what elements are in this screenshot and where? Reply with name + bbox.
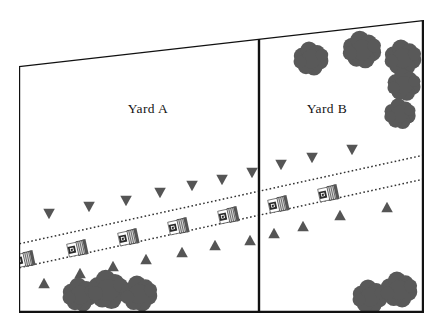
diagram-canvas: Yard A Yard B [0, 0, 438, 331]
site-map-figure: Yard A Yard B [0, 0, 438, 331]
yard-b-label: Yard B [307, 101, 347, 116]
outside-frame-mask-right [424, 0, 438, 331]
outside-frame-mask-bottom [0, 313, 438, 331]
yard-a-label: Yard A [128, 101, 168, 116]
